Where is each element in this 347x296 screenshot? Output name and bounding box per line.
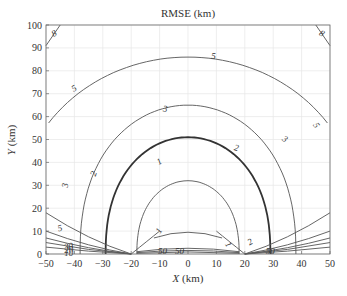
chart-title: RMSE (km) <box>161 7 215 20</box>
x-tick-label: 10 <box>211 258 221 269</box>
contour-label: 10 <box>64 248 74 258</box>
x-tick-label: 40 <box>297 258 307 269</box>
x-tick-label: 50 <box>325 258 335 269</box>
x-tick-label: 0 <box>186 258 191 269</box>
contour-label: 1 <box>155 156 164 167</box>
x-tick-label: −20 <box>123 258 139 269</box>
contour-line-low <box>245 247 330 254</box>
x-tick-label: −50 <box>38 258 54 269</box>
contour-label: 5 <box>211 51 216 61</box>
contour-label: 5 <box>69 83 78 94</box>
contour-line-low <box>46 247 131 254</box>
y-tick-label: 20 <box>32 203 42 214</box>
contour-chart: 881112223335555302010505050 −50−40−30−20… <box>0 0 347 296</box>
y-axis-label: Y (km) <box>5 125 18 156</box>
y-tick-label: 50 <box>32 134 42 145</box>
y-tick-label: 80 <box>32 65 42 76</box>
contour-label: 1 <box>223 240 234 249</box>
y-tick-label: 10 <box>32 226 42 237</box>
contour-label: 3 <box>280 133 291 145</box>
contour-line-low <box>245 231 330 254</box>
contour-label: 2 <box>233 142 240 153</box>
x-axis-label: X (km) <box>172 272 204 285</box>
y-tick-label: 40 <box>32 157 42 168</box>
x-tick-label: −30 <box>95 258 111 269</box>
contour-label: 3 <box>162 104 169 114</box>
y-tick-label: 70 <box>32 88 42 99</box>
contour-label: 2 <box>246 236 255 247</box>
y-tick-label: 90 <box>32 42 42 53</box>
contour-label: 5 <box>311 121 322 131</box>
x-tick-label: −40 <box>67 258 83 269</box>
y-tick-label: 60 <box>32 111 42 122</box>
x-tick-label: 20 <box>240 258 250 269</box>
x-axis-unit: (km) <box>179 272 203 285</box>
contour-label: 2 <box>88 169 99 177</box>
contour-label: 3 <box>60 182 70 189</box>
contour-label: 5 <box>56 222 63 233</box>
y-tick-label: 100 <box>27 20 42 31</box>
x-tick-label: 30 <box>268 258 278 269</box>
contour-line-low <box>46 231 131 254</box>
y-tick-label: 0 <box>37 249 42 260</box>
grid-lines <box>46 25 330 254</box>
y-tick-label: 30 <box>32 180 42 191</box>
y-axis-unit: (km) <box>5 125 18 149</box>
x-tick-label: −10 <box>152 258 168 269</box>
contour-label: 1 <box>153 226 164 235</box>
